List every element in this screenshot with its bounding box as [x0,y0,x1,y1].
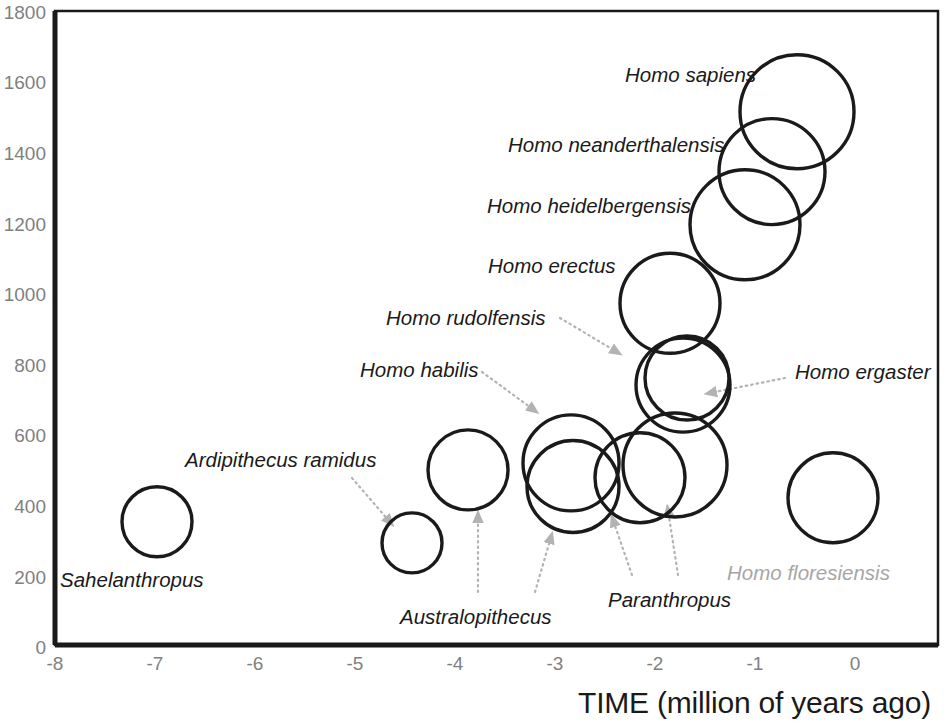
x-tick-0: 0 [832,654,878,673]
leader-line [535,537,551,592]
x-tick-minus-4: -4 [432,654,478,673]
species-label-sahelanthropus: Sahelanthropus [60,570,204,591]
x-tick-minus-1: -1 [732,654,778,673]
y-tick-800: 800 [0,356,46,375]
x-tick-minus-7: -7 [132,654,178,673]
y-tick-1000: 1000 [0,285,46,304]
y-tick-1800: 1800 [0,3,46,22]
x-axis-title: TIME (million of years ago) [578,686,931,720]
data-circle [740,55,854,169]
data-circle [122,487,192,557]
species-label-homo-rudolfensis: Homo rudolfensis [386,308,546,329]
data-circle [527,441,619,533]
data-circle [382,513,442,573]
y-tick-200: 200 [0,568,46,587]
species-label-homo-floresiensis: Homo floresiensis [727,563,890,584]
data-circle [623,413,727,517]
leader-line [482,372,534,410]
species-label-homo-neanderthalensis: Homo neanderthalensis [508,135,725,156]
x-tick-minus-8: -8 [32,654,78,673]
y-tick-1400: 1400 [0,144,46,163]
leader-line [613,520,632,575]
species-label-ardipithecus-ramidus: Ardipithecus ramidus [185,450,376,471]
x-tick-minus-6: -6 [232,654,278,673]
y-tick-1600: 1600 [0,73,46,92]
data-circle [595,433,685,523]
species-label-paranthropus: Paranthropus [608,590,731,611]
x-tick-minus-3: -3 [532,654,578,673]
data-circle [523,415,619,511]
leader-line [560,318,617,352]
species-label-homo-sapiens: Homo sapiens [625,65,756,86]
y-tick-1200: 1200 [0,215,46,234]
leader-line [710,378,785,393]
species-label-homo-habilis: Homo habilis [360,360,479,381]
species-label-homo-erectus: Homo erectus [488,256,616,277]
species-label-homo-heidelbergensis: Homo heidelbergensis [487,196,691,217]
data-circle [428,430,508,510]
x-tick-minus-5: -5 [332,654,378,673]
y-tick-600: 600 [0,426,46,445]
brain-volume-scatter-figure: 1800 1600 1400 1200 1000 800 600 400 200… [0,0,949,727]
leader-line [668,510,678,575]
x-tick-minus-2: -2 [632,654,678,673]
data-circle [788,453,878,543]
leader-line [352,478,390,522]
y-tick-400: 400 [0,497,46,516]
species-label-australopithecus: Australopithecus [400,607,552,628]
species-label-homo-ergaster: Homo ergaster [795,362,931,383]
